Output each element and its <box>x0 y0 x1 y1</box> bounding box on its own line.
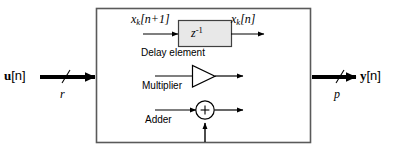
delay-output-index: [n] <box>240 12 255 26</box>
figure-canvas: u[n] r y[n] p xk[n+1] xk[n] z-1 Delay el… <box>0 0 409 150</box>
delay-input-index: [n+1] <box>140 12 169 26</box>
delay-operator-exponent: -1 <box>196 25 203 35</box>
delay-input-signal-label: xk[n+1] <box>131 12 170 27</box>
adder-caption: Adder <box>145 114 172 125</box>
multiplier-triangle <box>193 66 216 88</box>
input-signal-label: u[n] <box>4 68 26 84</box>
output-bus-width-label: p <box>334 87 340 102</box>
input-bus-width-label: r <box>60 87 65 102</box>
output-signal-index: [n] <box>367 68 381 83</box>
input-signal-index: [n] <box>11 68 25 83</box>
delay-output-signal-label: xk[n] <box>231 12 256 27</box>
delay-operator-label: z-1 <box>191 25 203 41</box>
delay-element-caption: Delay element <box>141 47 205 58</box>
diagram-graphics <box>0 0 409 150</box>
multiplier-caption: Multiplier <box>142 80 182 91</box>
delay-element-box <box>179 21 232 47</box>
output-signal-label: y[n] <box>360 68 381 84</box>
